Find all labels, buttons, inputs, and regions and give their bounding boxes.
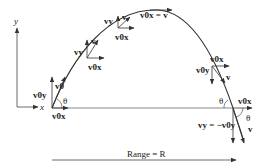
label-range: Range = R xyxy=(127,149,166,159)
label-apex: v0x = v xyxy=(140,10,168,20)
x-axis-label: x xyxy=(39,102,44,112)
label-v-3: v xyxy=(226,72,231,82)
label-v0y-left: v0y xyxy=(33,90,47,100)
label-v0x-land: v0x xyxy=(238,96,252,106)
label-theta-launch: θ xyxy=(63,96,67,106)
label-v0x-1: v0x xyxy=(88,62,102,72)
label-vy-1: vy xyxy=(74,47,84,57)
label-v0x-3: v0x xyxy=(210,54,224,64)
label-vy-land: vy = −v0y xyxy=(198,120,236,130)
projectile-diagram: y x v0y v0 v0x θ vy v v0x vy v v0x v0x =… xyxy=(0,0,268,168)
label-v0-launch: v0 xyxy=(55,81,65,91)
label-theta-land2: θ xyxy=(246,113,250,123)
label-v-1: v xyxy=(91,36,96,46)
label-v-land: v xyxy=(248,124,253,134)
label-theta-land: θ xyxy=(219,96,223,106)
point1-vectors xyxy=(87,40,104,58)
label-v0x-2: v0x xyxy=(115,32,129,42)
y-axis-label: y xyxy=(13,16,18,26)
label-vy-2: vy xyxy=(104,16,114,26)
label-v0x-launch: v0x xyxy=(52,111,66,121)
label-v0y-3: v0y xyxy=(196,65,210,75)
label-v-2: v xyxy=(122,12,127,22)
